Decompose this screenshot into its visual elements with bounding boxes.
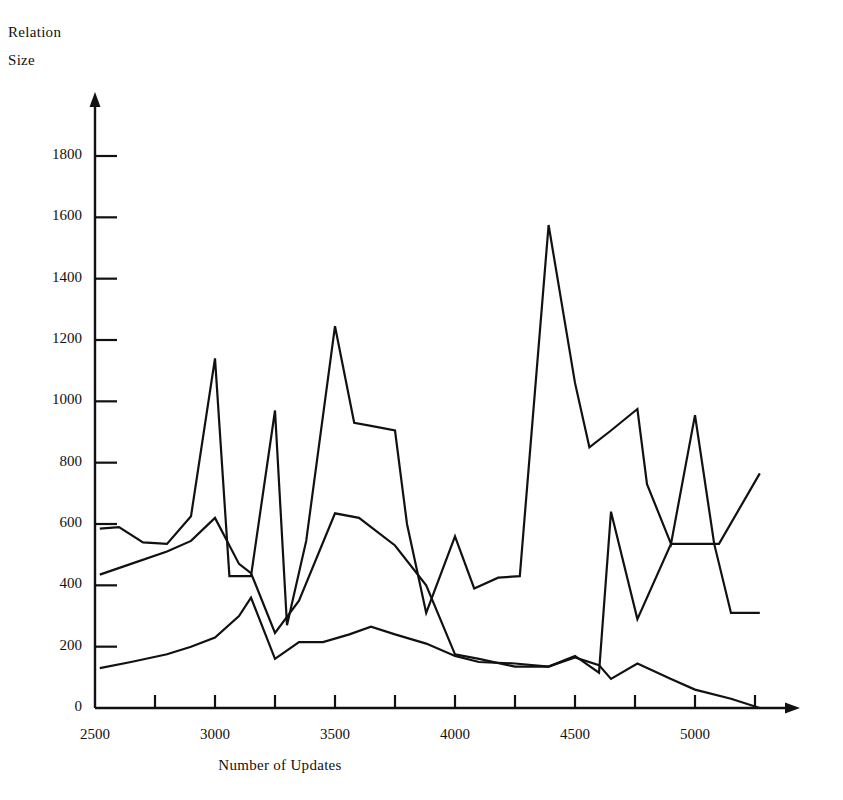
series-group xyxy=(100,225,760,708)
y-axis-arrow xyxy=(90,92,101,107)
axes-group xyxy=(90,92,801,714)
data-series-line xyxy=(100,598,760,708)
x-axis-arrow xyxy=(785,703,800,714)
chart-container: Relation Size Number of Updates 02004006… xyxy=(0,0,843,800)
plot-area xyxy=(0,0,843,800)
